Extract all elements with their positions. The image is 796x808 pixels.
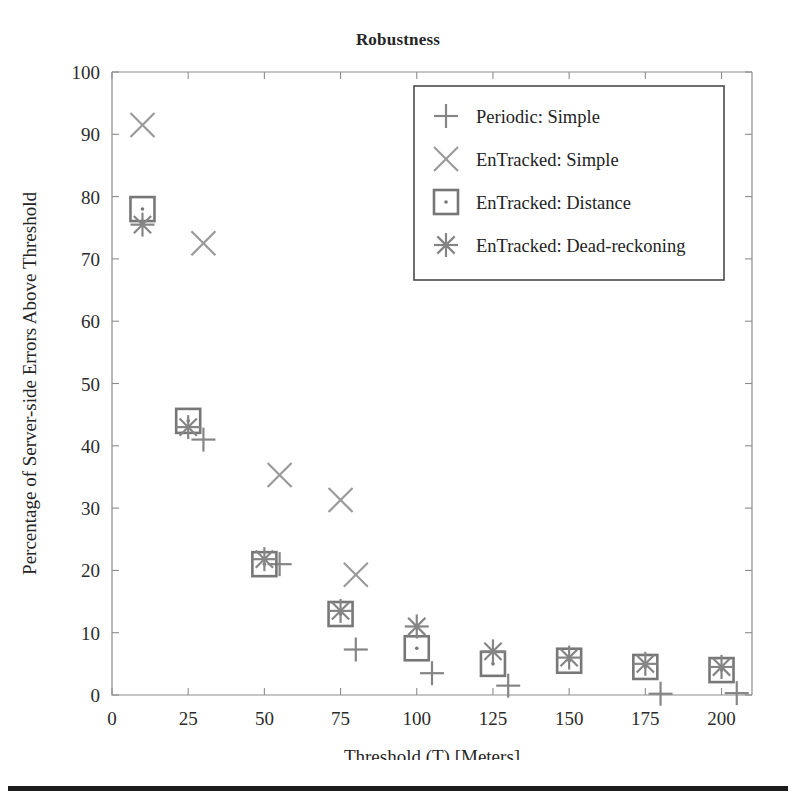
y-axis-title: Percentage of Server-side Errors Above T…: [19, 192, 40, 575]
y-tick-label: 80: [81, 187, 100, 208]
y-tick-label: 100: [72, 62, 101, 83]
x-tick-label: 175: [631, 708, 660, 729]
series-cross: [130, 113, 367, 587]
y-tick-label: 0: [91, 685, 101, 706]
legend-label: Periodic: Simple: [476, 107, 600, 127]
y-tick-label: 50: [81, 374, 100, 395]
series-asterisk: [130, 213, 733, 679]
x-tick-label: 25: [179, 708, 198, 729]
x-tick-label: 200: [707, 708, 736, 729]
x-tick-label: 150: [555, 708, 584, 729]
y-tick-label: 60: [81, 311, 100, 332]
x-tick-label: 50: [255, 708, 274, 729]
x-tick-label: 125: [479, 708, 508, 729]
data-point-square-dot: [415, 646, 419, 650]
legend-label: EnTracked: Distance: [476, 193, 631, 213]
x-axis-title: Threshold (T) [Meters]: [344, 746, 520, 760]
y-tick-label: 30: [81, 498, 100, 519]
y-tick-label: 90: [81, 124, 100, 145]
page-footer-rule: [8, 786, 788, 791]
x-tick-label: 0: [107, 708, 117, 729]
legend-label: EnTracked: Simple: [476, 150, 619, 170]
figure-robustness: Robustness 0255075100125150175200 010203…: [0, 0, 796, 808]
data-point-square-dot: [444, 200, 448, 204]
legend-group[interactable]: Periodic: SimpleEnTracked: SimpleEnTrack…: [414, 86, 724, 280]
x-tick-label: 75: [331, 708, 350, 729]
y-tick-label: 40: [81, 436, 100, 457]
data-point-square-dot: [141, 207, 145, 211]
y-tick-label: 10: [81, 623, 100, 644]
y-tick-label: 20: [81, 560, 100, 581]
scatter-plot-svg: 0255075100125150175200 01020304050607080…: [0, 0, 796, 760]
plot-area: 0255075100125150175200 01020304050607080…: [0, 0, 796, 760]
x-tick-label: 100: [403, 708, 432, 729]
y-tick-label: 70: [81, 249, 100, 270]
legend-label: EnTracked: Dead-reckoning: [476, 236, 685, 256]
